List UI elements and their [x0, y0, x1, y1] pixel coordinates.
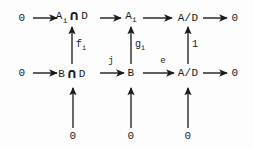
- node-mid-A-mod-D: A/D: [178, 67, 199, 79]
- node-label-pre: B: [58, 68, 65, 80]
- node-mid-zero-right: 0: [232, 67, 239, 79]
- node-label-post: D: [79, 68, 86, 80]
- node-base-zero-1: 0: [70, 130, 77, 142]
- node-label: A/D: [178, 67, 199, 79]
- node-label-pre: A: [56, 10, 63, 22]
- node-label: 0: [232, 67, 239, 79]
- node-top-A-mod-D: A/D: [178, 12, 199, 24]
- intersection-icon: ∩: [68, 9, 82, 21]
- node-label-pre: A: [125, 10, 132, 22]
- node-base-zero-3: 0: [185, 130, 192, 142]
- node-top-Ai-cap-D: Ai∩D: [56, 9, 88, 26]
- node-label-subscript: i: [132, 15, 137, 24]
- node-mid-B: B: [128, 67, 135, 79]
- node-label: 0: [128, 130, 135, 142]
- node-top-zero-right: 0: [232, 12, 239, 24]
- node-label: 0: [19, 12, 26, 24]
- arrow-label-one: 1: [192, 40, 198, 53]
- node-label: A/D: [178, 12, 199, 24]
- arrow-label-g-i: gi: [135, 40, 145, 53]
- arrow-label-subscript: i: [141, 44, 145, 52]
- node-label: 0: [185, 130, 192, 142]
- node-label: B: [128, 67, 135, 79]
- node-mid-B-cap-D: B∩D: [58, 67, 85, 80]
- arrow-label-subscript: i: [82, 44, 86, 52]
- node-mid-zero-left: 0: [19, 67, 26, 79]
- arrow-label-text: j: [108, 56, 113, 66]
- arrow-label-f-i: fi: [76, 40, 86, 53]
- arrow-label-text: 1: [192, 39, 198, 50]
- node-base-zero-2: 0: [128, 130, 135, 142]
- node-top-Ai: Ai: [125, 10, 137, 26]
- arrow-label-e: e: [160, 57, 165, 66]
- node-label: 0: [19, 67, 26, 79]
- diagram-canvas: 0 Ai∩D Ai A/D 0 0 B∩D B A/D 0 0 0 0 j e: [0, 0, 253, 148]
- node-top-zero-left: 0: [19, 12, 26, 24]
- node-label-post: D: [81, 10, 88, 22]
- node-label: 0: [232, 12, 239, 24]
- node-label: 0: [70, 130, 77, 142]
- arrow-label-text: e: [160, 56, 165, 66]
- arrow-label-j: j: [108, 57, 113, 66]
- intersection-icon: ∩: [65, 67, 79, 79]
